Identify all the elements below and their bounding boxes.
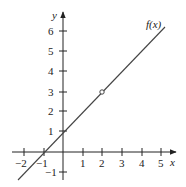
function-label: f(x) (146, 18, 162, 31)
y-tick-label: 5 (48, 45, 54, 57)
y-tick-label: 2 (48, 105, 54, 117)
x-tick-label: 4 (139, 157, 145, 169)
open-circle-hole (100, 90, 104, 94)
x-axis-label: x (169, 156, 175, 168)
x-tick-label: 5 (158, 157, 164, 169)
x-tick-label: 3 (119, 157, 125, 169)
y-tick-label: 4 (48, 65, 54, 77)
y-tick-label: −1 (45, 166, 57, 178)
function-graph: −2 −1 1 2 3 4 5 6 5 4 3 2 1 −1 x y f(x) (0, 0, 186, 187)
y-tick-label: 1 (48, 125, 54, 137)
x-tick-label: 2 (99, 157, 105, 169)
y-tick-label: 6 (48, 25, 54, 37)
x-tick-label: −2 (15, 157, 27, 169)
y-tick-label: 3 (48, 86, 54, 98)
x-tick-label: 1 (80, 157, 86, 169)
y-axis-label: y (51, 9, 57, 21)
